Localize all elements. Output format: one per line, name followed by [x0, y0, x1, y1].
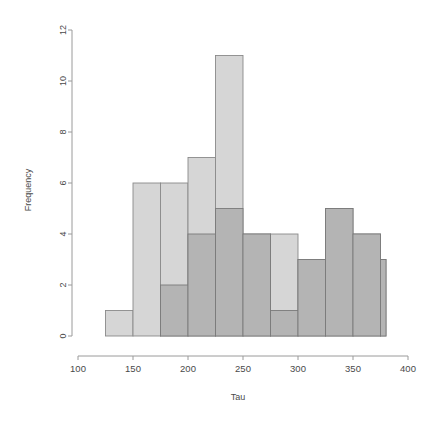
y-tick-label: 10	[58, 76, 68, 86]
histogram-bar	[106, 311, 134, 337]
x-tick-label: 150	[125, 363, 141, 374]
histogram-bar	[353, 234, 381, 336]
histogram-bar	[188, 234, 216, 336]
x-tick-label: 250	[235, 363, 251, 374]
x-tick-label: 200	[180, 363, 196, 374]
histogram-bar	[298, 260, 326, 337]
histogram-bar	[216, 209, 244, 337]
x-tick-label: 100	[70, 363, 86, 374]
histogram-bar	[243, 234, 271, 336]
y-tick-label: 4	[58, 231, 68, 236]
histogram-bar	[271, 311, 299, 337]
histogram-bar	[161, 285, 189, 336]
y-tick-label: 6	[58, 180, 68, 185]
y-tick-label: 12	[58, 25, 68, 35]
x-tick-label: 300	[290, 363, 306, 374]
histogram-bar	[133, 183, 161, 336]
y-axis-title: Frequency	[23, 168, 33, 211]
histogram-bar	[326, 209, 354, 337]
x-axis-title: Tau	[231, 392, 246, 402]
x-tick-label: 350	[345, 363, 361, 374]
y-tick-label: 0	[58, 333, 68, 338]
histogram-bar	[381, 260, 387, 337]
histogram-figure: 024681012 100150200250300350400 Frequenc…	[0, 0, 437, 422]
x-tick-label: 400	[400, 363, 416, 374]
y-tick-label: 2	[58, 282, 68, 287]
y-tick-label: 8	[58, 129, 68, 134]
